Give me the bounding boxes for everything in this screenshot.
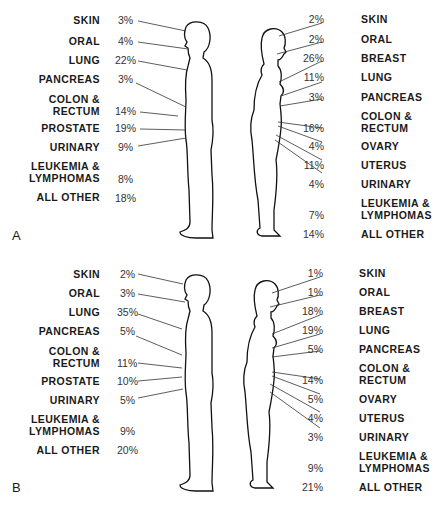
b-male-pct-pancreas: 5% [120,325,135,337]
b-female-site-breast: BREAST [359,305,405,317]
a-female-site-colon-rectum: COLON & RECTUM [361,110,412,134]
a-male-pct-oral: 4% [118,35,133,47]
a-female-site-uterus: UTERUS [361,159,407,171]
b-male-pct-urinary: 5% [120,394,135,406]
a-female-site-skin: SKIN [361,13,388,25]
b-female-pct-lung: 19% [293,324,323,336]
a-female-site-leukemia: LEUKEMIA & LYMPHOMAS [361,197,432,221]
a-male-site-oral: ORAL [69,35,100,47]
b-female-site-all-other: ALL OTHER [359,481,423,493]
b-male-site-all-other: ALL OTHER [37,444,101,456]
a-female-pct-urinary: 4% [294,178,324,190]
a-male-site-skin: SKIN [73,14,100,26]
a-male-site-all-other: ALL OTHER [37,191,101,203]
a-male-site-urinary: URINARY [50,141,100,153]
a-female-pct-leukemia: 7% [294,209,324,221]
b-female-pct-all-other: 21% [293,481,323,493]
female-silhouette-b [244,281,279,488]
a-male-pct-leukemia: 8% [118,173,133,185]
a-male-pct-lung: 22% [115,54,136,66]
b-male-pct-skin: 2% [120,268,135,280]
a-female-pct-skin: 2% [294,13,324,25]
a-female-pct-all-other: 14% [294,228,324,240]
panel-label-a: A [12,228,21,243]
b-female-pct-leukemia: 9% [293,462,323,474]
b-female-site-oral: ORAL [359,286,390,298]
a-female-site-lung: LUNG [361,71,392,83]
panel-label-b: B [12,480,21,495]
a-female-pct-breast: 26% [294,52,324,64]
a-male-pct-skin: 3% [118,14,133,26]
b-male-site-prostate: PROSTATE [41,375,100,387]
b-male-site-pancreas: PANCREAS [39,325,100,337]
b-female-site-ovary: OVARY [359,393,397,405]
b-male-pct-oral: 3% [120,287,135,299]
a-male-pct-colon-rectum: 14% [115,105,136,117]
a-male-site-pancreas: PANCREAS [39,73,100,85]
b-male-pct-leukemia: 9% [120,425,135,437]
b-female-site-colon-rectum: COLON & RECTUM [359,362,410,386]
b-male-site-lung: LUNG [69,306,100,318]
a-female-pct-colon-rectum: 16% [294,122,324,134]
b-female-site-uterus: UTERUS [359,412,405,424]
b-female-pct-breast: 18% [293,305,323,317]
b-male-pct-lung: 35% [117,306,138,318]
a-male-pct-prostate: 19% [115,122,136,134]
b-female-pct-urinary: 3% [293,431,323,443]
a-female-site-breast: BREAST [361,52,407,64]
b-female-site-lung: LUNG [359,324,390,336]
a-female-pct-oral: 2% [294,33,324,45]
b-female-pct-oral: 1% [293,286,323,298]
a-female-site-all-other: ALL OTHER [361,228,425,240]
b-male-site-skin: SKIN [73,268,100,280]
a-female-site-pancreas: PANCREAS [361,91,422,103]
a-male-pct-pancreas: 3% [118,73,133,85]
b-female-pct-uterus: 4% [293,412,323,424]
b-female-site-skin: SKIN [359,267,386,279]
b-female-pct-colon-rectum: 14% [293,374,323,386]
a-female-site-urinary: URINARY [361,178,411,190]
a-female-pct-uterus: 11% [294,159,324,171]
male-silhouette-b [180,275,213,491]
b-male-site-colon-rectum: COLON & RECTUM [49,345,100,369]
a-male-pct-all-other: 18% [115,192,136,204]
b-male-pct-prostate: 10% [117,375,138,387]
b-female-site-urinary: URINARY [359,431,409,443]
b-male-pct-all-other: 20% [117,444,138,456]
b-male-site-urinary: URINARY [50,394,100,406]
b-female-site-pancreas: PANCREAS [359,343,420,355]
a-female-site-ovary: OVARY [361,140,399,152]
a-male-pct-urinary: 9% [118,141,133,153]
b-female-pct-skin: 1% [293,267,323,279]
b-male-site-oral: ORAL [69,287,100,299]
female-silhouette-a [251,29,286,236]
a-female-pct-ovary: 4% [294,140,324,152]
a-male-site-colon-rectum: COLON & RECTUM [49,93,100,117]
b-female-site-leukemia: LEUKEMIA & LYMPHOMAS [359,450,430,474]
a-female-pct-pancreas: 3% [294,91,324,103]
b-male-pct-colon-rectum: 11% [117,357,137,369]
a-male-site-prostate: PROSTATE [41,122,100,134]
a-male-site-leukemia: LEUKEMIA & LYMPHOMAS [29,160,100,184]
b-male-site-leukemia: LEUKEMIA & LYMPHOMAS [29,413,100,437]
a-female-pct-lung: 11% [294,71,324,83]
a-female-site-oral: ORAL [361,33,392,45]
b-female-pct-ovary: 5% [293,393,323,405]
a-male-site-lung: LUNG [69,54,100,66]
b-female-pct-pancreas: 5% [293,343,323,355]
